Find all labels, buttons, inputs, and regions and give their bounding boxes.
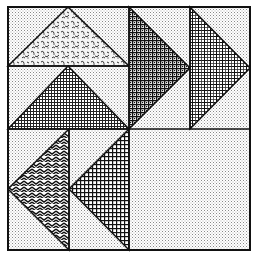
quilt-block — [0, 0, 257, 256]
